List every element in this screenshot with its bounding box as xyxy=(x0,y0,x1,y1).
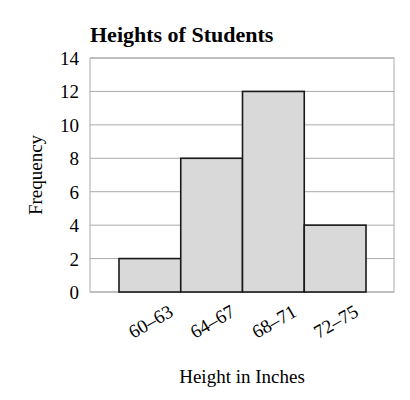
y-tick-label: 12 xyxy=(60,81,79,102)
y-axis-label: Frequency xyxy=(25,134,46,215)
y-tick-label: 10 xyxy=(60,115,79,136)
y-tick-label: 6 xyxy=(70,182,80,203)
chart-title: Heights of Students xyxy=(90,22,274,47)
y-tick-label: 2 xyxy=(70,249,80,270)
y-tick-label: 4 xyxy=(70,215,80,236)
x-tick-label: 68–71 xyxy=(248,300,300,342)
bar xyxy=(304,225,366,292)
y-tick-label: 0 xyxy=(70,282,80,303)
y-tick-label: 8 xyxy=(70,148,80,169)
histogram-chart: Heights of Students 02468101214 60–6364–… xyxy=(0,0,410,400)
bar xyxy=(181,158,243,292)
x-tick-label: 64–67 xyxy=(187,300,239,342)
x-axis-label: Height in Inches xyxy=(179,366,305,387)
y-axis-ticks: 02468101214 xyxy=(60,48,80,303)
x-tick-label: 60–63 xyxy=(125,300,177,342)
bar xyxy=(119,259,181,292)
x-tick-label: 72–75 xyxy=(310,300,362,342)
y-tick-label: 14 xyxy=(60,48,80,69)
bar xyxy=(243,91,305,292)
x-axis-ticks: 60–6364–6768–7172–75 xyxy=(125,300,362,342)
